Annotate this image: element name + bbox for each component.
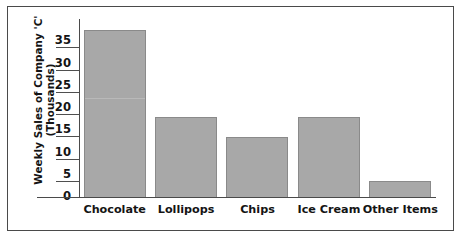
y-axis-tick-mark [56,181,79,182]
y-axis-tick-mark [56,114,79,115]
bar-series-chocolate-sales [79,19,436,197]
y-axis-tick: 30 [36,57,76,71]
x-axis-label-group: ChocolateLollipopsChipsIce CreamOther It… [79,203,436,223]
y-axis-tick-label: 25 [55,80,71,92]
y-axis-tick-mark [56,92,79,93]
bar-other-items[interactable] [369,181,431,197]
y-axis-tick-label: 35 [55,35,71,47]
y-axis-tick-mark [56,47,79,48]
x-axis-label-lollipops: Lollipops [158,203,215,216]
y-axis-tick-label: 30 [55,58,71,70]
chart-figure-frame: Weekly Sales of Company 'C' (Thousands) … [7,6,454,231]
bar-slot [150,19,221,197]
y-axis-tick: 35 [36,34,76,48]
bar-chocolate[interactable] [84,30,146,197]
bar-ice-cream[interactable] [298,117,360,197]
bar-chips[interactable] [226,137,288,197]
x-axis-line [37,197,436,198]
bar-slot [293,19,364,197]
y-axis-tick: 25 [36,79,76,93]
x-axis-label-ice-cream: Ice Cream [297,203,360,216]
y-axis-tick-label: 5 [63,169,71,181]
bar-slot [79,19,150,197]
bar-lollipops[interactable] [155,117,217,197]
y-axis-tick: 20 [36,101,76,115]
y-axis-tick-label: 20 [55,102,71,114]
y-axis-tick: 10 [36,146,76,160]
x-axis-label-other-items: Other Items [363,203,438,216]
bar-chart-plot-area: Weekly Sales of Company 'C' (Thousands) … [8,7,455,232]
y-axis-tick: 15 [36,123,76,137]
x-axis-label-chips: Chips [240,203,275,216]
y-axis-tick-mark [56,159,79,160]
y-axis-tick-mark [56,70,79,71]
y-axis-tick-label: 10 [55,147,71,159]
bar-slot [222,19,293,197]
y-axis-tick-label: 15 [55,124,71,136]
y-axis-tick-mark [56,136,79,137]
bar-slot [365,19,436,197]
y-axis-tick: 5 [36,168,76,182]
bar-scan-seam [85,98,145,99]
x-axis-label-chocolate: Chocolate [83,203,146,216]
